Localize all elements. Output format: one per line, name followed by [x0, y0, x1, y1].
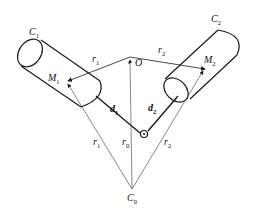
label-r0: r0 — [122, 137, 129, 150]
label-m1: M1 — [48, 73, 60, 86]
label-c1: C1 — [29, 27, 39, 40]
label-m2: M2 — [204, 55, 216, 68]
label-o: O — [135, 58, 142, 68]
label-r1: r1 — [93, 137, 100, 150]
label-r2-0: r2 — [158, 45, 165, 58]
label-d2: d2 — [148, 103, 156, 116]
label-d1: d1 — [110, 104, 118, 117]
label-c0: C0 — [127, 193, 137, 206]
label-r1-0: r1 — [92, 54, 99, 67]
cylinder-c2 — [159, 30, 239, 107]
vector-r2 — [132, 71, 203, 189]
cylinder-c1 — [12, 34, 101, 107]
label-c2: C2 — [211, 14, 221, 27]
vector-diagram: C1 C2 M1 M2 O r1 r2 d1 d2 r1 r0 r2 C0 — [0, 0, 253, 211]
label-r2: r2 — [164, 137, 171, 150]
